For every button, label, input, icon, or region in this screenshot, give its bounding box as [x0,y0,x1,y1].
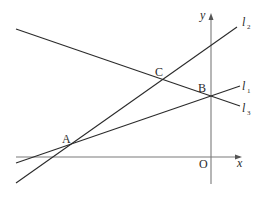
svg-text:1: 1 [247,87,251,95]
x-axis-label: x [236,156,243,170]
coordinate-diagram: y x O A B C l 2 l 1 l 3 [0,0,265,197]
svg-text:l: l [242,79,246,93]
y-axis-label: y [199,8,206,22]
svg-text:l: l [242,101,246,115]
y-axis-arrow-icon [209,13,214,20]
svg-text:l: l [242,15,246,29]
line-l3-label: l 3 [242,101,251,117]
line-l1 [16,86,240,163]
svg-text:3: 3 [247,109,251,117]
point-c-label: C [155,65,163,79]
y-axis [209,13,214,184]
point-a-label: A [62,132,71,146]
point-b-label: B [198,81,206,95]
line-l1-label: l 1 [242,79,251,95]
origin-label: O [199,157,208,171]
line-l2-label: l 2 [242,15,251,31]
svg-text:2: 2 [247,23,251,31]
line-l3 [16,29,240,106]
